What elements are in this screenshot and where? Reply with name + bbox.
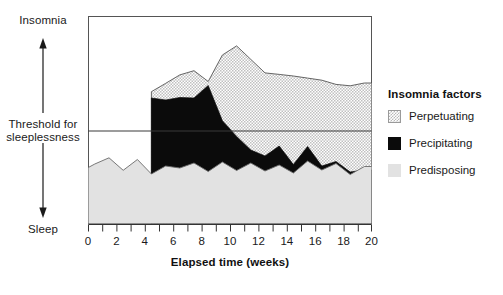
- x-tick-label-8: 8: [191, 235, 213, 247]
- legend-item-precipitating: Precipitating: [388, 136, 500, 150]
- y-axis-bottom-label: Sleep: [0, 223, 86, 236]
- legend-label-perpetuating: Perpetuating: [409, 110, 474, 122]
- x-tick-label-4: 4: [134, 235, 156, 247]
- x-tick-label-20: 20: [361, 235, 383, 247]
- x-axis-title: Elapsed time (weeks): [88, 256, 372, 268]
- y-axis-top-label: Insomnia: [0, 14, 86, 27]
- x-tick-label-14: 14: [276, 235, 298, 247]
- x-tick-label-0: 0: [77, 235, 99, 247]
- x-tick-label-10: 10: [219, 235, 241, 247]
- solid-black-swatch-icon: [388, 137, 401, 150]
- y-axis-annotation-column: Insomnia Threshold for sleeplessness Sle…: [0, 14, 86, 242]
- x-tick-label-12: 12: [247, 235, 269, 247]
- x-tick-label-18: 18: [333, 235, 355, 247]
- chart-series-group: [88, 46, 372, 224]
- legend-title: Insomnia factors: [388, 88, 500, 100]
- y-axis-threshold-label-line1: Threshold for: [0, 118, 86, 131]
- x-axis-ticks: [88, 224, 372, 234]
- y-axis-threshold-label: Threshold for sleeplessness: [0, 118, 86, 144]
- legend-item-perpetuating: Perpetuating: [388, 109, 500, 123]
- legend-label-precipitating: Precipitating: [409, 137, 472, 149]
- stacked-area-chart: [88, 16, 372, 224]
- legend: Insomnia factors Perpetuating Precipitat…: [388, 88, 500, 190]
- solid-gray-swatch-icon: [388, 164, 401, 177]
- legend-label-predisposing: Predisposing: [409, 164, 475, 176]
- x-tick-label-2: 2: [105, 235, 127, 247]
- y-axis-threshold-label-line2: sleeplessness: [0, 131, 86, 144]
- legend-item-predisposing: Predisposing: [388, 163, 500, 177]
- x-tick-label-6: 6: [162, 235, 184, 247]
- insomnia-factors-figure: Insomnia Threshold for sleeplessness Sle…: [0, 0, 503, 295]
- x-tick-label-16: 16: [304, 235, 326, 247]
- series-predisposing-area: [88, 158, 372, 224]
- plot-area: [88, 16, 372, 224]
- x-axis-tick-labels: 0 2 4 6 8 10 12 14 16 18 20: [78, 235, 382, 251]
- checkerboard-swatch-icon: [388, 110, 401, 123]
